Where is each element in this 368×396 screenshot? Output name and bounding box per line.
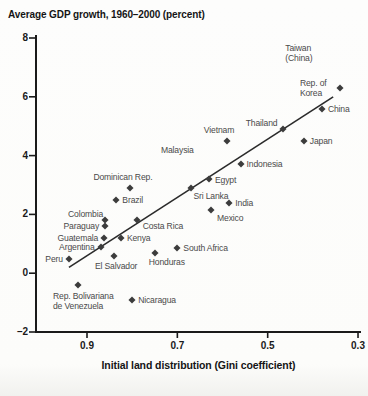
point-label-thailand: Thailand (246, 118, 278, 129)
y-tick-label-2: –2 (0, 326, 28, 338)
y-tick-label-8: 8 (0, 32, 28, 44)
point-label-vietnam: Vietnam (204, 124, 234, 135)
point-label-kenya: Kenya (127, 233, 151, 244)
point-label-rep-of-korea: Rep. of Korea (300, 77, 334, 98)
cropped-print-artifact (252, 385, 364, 391)
y-tick-label-6: 6 (0, 91, 28, 103)
point-label-india: India (235, 197, 253, 208)
point-label-el-salvador: El Salvador (95, 261, 137, 272)
point-label-china: China (328, 103, 350, 114)
point-label-colombia: Colombia (68, 209, 103, 220)
point-label-brazil: Brazil (122, 194, 143, 205)
x-axis-title: Initial land distribution (Gini coeffici… (36, 359, 361, 371)
point-label-taiwan-china: Taiwan (China) (285, 42, 340, 63)
trend-line (69, 97, 333, 268)
point-label-japan: Japan (310, 136, 333, 147)
point-label-south-africa: South Africa (183, 243, 228, 254)
x-tick-label-0-3: 0.3 (351, 340, 365, 351)
point-label-peru: Peru (45, 253, 63, 264)
y-tick-label-2: 2 (0, 208, 28, 220)
y-tick-label-4: 4 (0, 150, 28, 162)
point-label-honduras: Honduras (149, 257, 185, 268)
point-label-egypt: Egypt (215, 175, 236, 186)
point-label-rep-bolivariana-de-venezuela: Rep. Bolivariana de Venezuela (53, 291, 114, 312)
point-label-argentina: Argentina (59, 241, 94, 252)
x-tick-label-0-5: 0.5 (261, 340, 275, 351)
point-label-costa-rica: Costa Rica (143, 221, 184, 232)
x-tick-label-0-7: 0.7 (170, 340, 184, 351)
point-label-dominican-rep: Dominican Rep. (93, 171, 152, 182)
point-label-sri-lanka: Sri Lanka (193, 191, 228, 202)
y-tick-label-0: 0 (0, 267, 28, 279)
point-label-malaysia: Malaysia (161, 144, 194, 155)
point-label-mexico: Mexico (217, 213, 243, 224)
point-label-nicaragua: Nicaragua (138, 294, 176, 305)
x-tick-label-0-9: 0.9 (80, 340, 94, 351)
point-label-paraguay: Paraguay (63, 221, 99, 232)
scatter-chart-figure: Average GDP growth, 1960–2000 (percent) … (0, 0, 368, 396)
point-label-indonesia: Indonesia (247, 159, 283, 170)
